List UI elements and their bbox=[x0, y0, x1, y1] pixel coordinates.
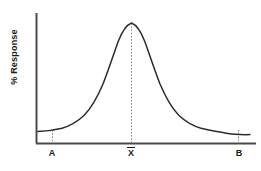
x-tick-label-a: A bbox=[42, 148, 62, 158]
chart-plot-area bbox=[0, 0, 261, 171]
x-tick-label-b: B bbox=[229, 148, 249, 158]
distribution-curve bbox=[38, 23, 250, 135]
xbar-symbol: X bbox=[128, 149, 134, 158]
x-tick-label-xbar: X bbox=[121, 148, 141, 158]
y-axis-label: % Response bbox=[9, 17, 19, 97]
xbar-letter: X bbox=[128, 148, 134, 158]
overbar-glyph bbox=[127, 147, 134, 148]
bell-curve-chart: % Response A X B bbox=[0, 0, 261, 171]
